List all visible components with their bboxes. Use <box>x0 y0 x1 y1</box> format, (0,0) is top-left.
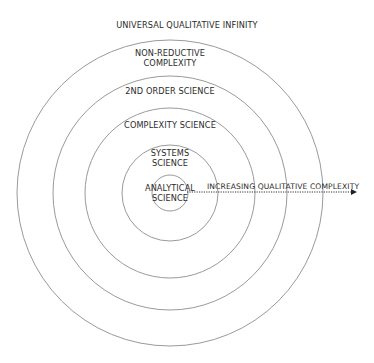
label-universal-qualitative-infinity: UNIVERSAL QUALITATIVE INFINITY <box>0 20 374 30</box>
label-systems-line1: SYSTEMS <box>130 148 210 158</box>
label-increasing-qualitative-complexity: INCREASING QUALITATIVE COMPLEXITY <box>207 182 359 192</box>
label-2nd-order-science: 2ND ORDER SCIENCE <box>110 86 230 96</box>
label-analytical-line1: ANALYTICAL <box>130 183 210 193</box>
label-non-reductive-line2: COMPLEXITY <box>120 58 220 68</box>
label-complexity-science: COMPLEXITY SCIENCE <box>110 120 230 130</box>
label-systems-line2: SCIENCE <box>130 158 210 168</box>
label-analytical-line2: SCIENCE <box>130 193 210 203</box>
label-non-reductive-line1: NON-REDUCTIVE <box>120 48 220 58</box>
